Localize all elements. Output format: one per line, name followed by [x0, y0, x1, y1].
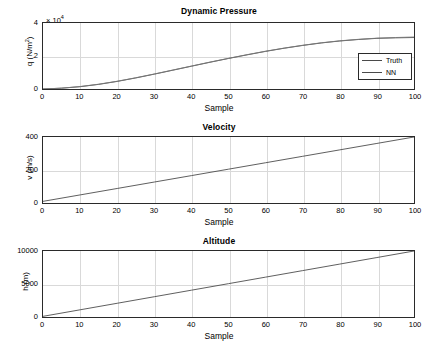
- x-tick-label: 10: [69, 320, 89, 329]
- x-tick-label: 20: [107, 320, 127, 329]
- chart-title-velocity: Velocity: [0, 122, 438, 132]
- y-tick-label: 400: [10, 132, 38, 141]
- x-tick-label: 90: [368, 92, 388, 101]
- x-tick-label: 100: [405, 320, 425, 329]
- y-tick-label: 4: [14, 18, 38, 27]
- x-axis-label-altitude: Sample: [0, 331, 438, 341]
- y-tick-label: 5000: [6, 279, 38, 288]
- x-tick-label: 100: [405, 92, 425, 101]
- x-tick-label: 90: [368, 206, 388, 215]
- x-tick-label: 0: [32, 320, 52, 329]
- x-tick-label: 40: [181, 206, 201, 215]
- y-tick-label: 200: [10, 165, 38, 174]
- y-tick-label: 2: [14, 51, 38, 60]
- legend-swatch-line: [362, 60, 382, 61]
- x-tick-label: 60: [256, 206, 276, 215]
- series-polyline-altitude: [43, 251, 414, 316]
- series-curve-altitude: [43, 251, 414, 317]
- x-tick-label: 20: [107, 206, 127, 215]
- x-tick-label: 40: [181, 320, 201, 329]
- series-curve-velocity: [43, 137, 414, 203]
- x-tick-label: 60: [256, 92, 276, 101]
- x-tick-label: 70: [293, 320, 313, 329]
- exponent-power: 4: [61, 14, 64, 20]
- x-tick-label: 70: [293, 92, 313, 101]
- x-tick-label: 30: [144, 320, 164, 329]
- x-axis-label-velocity: Sample: [0, 217, 438, 227]
- x-tick-label: 20: [107, 92, 127, 101]
- x-tick-label: 50: [219, 206, 239, 215]
- x-tick-label: 80: [330, 206, 350, 215]
- y-axis-label-tail: ): [25, 36, 34, 39]
- legend-swatch-line: [362, 72, 382, 73]
- x-tick-label: 40: [181, 92, 201, 101]
- chart-title-dynamic-pressure: Dynamic Pressure: [0, 6, 438, 16]
- series-polyline-velocity: [43, 137, 414, 201]
- x-axis-label-dynamic-pressure: Sample: [0, 103, 438, 113]
- x-tick-label: 10: [69, 206, 89, 215]
- x-tick-label: 50: [219, 92, 239, 101]
- x-tick-label: 70: [293, 206, 313, 215]
- x-tick-label: 100: [405, 206, 425, 215]
- legend-entry-truth[interactable]: Truth: [359, 54, 411, 66]
- x-tick-label: 0: [32, 92, 52, 101]
- figure-canvas: Dynamic Pressure × 104 q (N/m2) 4 2 0: [0, 0, 438, 358]
- x-tick-label: 90: [368, 320, 388, 329]
- x-tick-label: 30: [144, 92, 164, 101]
- x-tick-label: 80: [330, 92, 350, 101]
- legend-label: Truth: [386, 57, 402, 64]
- legend-box[interactable]: Truth NN: [358, 53, 412, 80]
- plot-area-velocity: [42, 136, 415, 204]
- x-tick-label: 0: [32, 206, 52, 215]
- plot-area-altitude: [42, 250, 415, 318]
- y-tick-label: 10000: [6, 246, 38, 255]
- legend-label: NN: [386, 69, 396, 76]
- x-tick-label: 30: [144, 206, 164, 215]
- x-tick-label: 10: [69, 92, 89, 101]
- chart-title-altitude: Altitude: [0, 236, 438, 246]
- x-tick-label: 50: [219, 320, 239, 329]
- legend-entry-nn[interactable]: NN: [359, 66, 411, 78]
- x-tick-label: 60: [256, 320, 276, 329]
- x-tick-label: 80: [330, 320, 350, 329]
- y-axis-label-exponent: 2: [24, 39, 30, 42]
